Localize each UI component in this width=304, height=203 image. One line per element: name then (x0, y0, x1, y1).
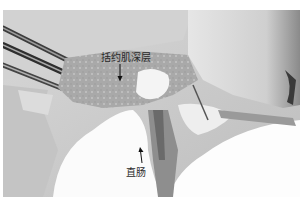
arrow-down-icon (117, 64, 123, 82)
label-rectum: 直肠 (126, 168, 146, 178)
arrow-up-icon (138, 147, 144, 164)
surgical-photo (3, 10, 300, 197)
label-sphincter-deep-layer: 括约肌深层 (101, 53, 151, 63)
